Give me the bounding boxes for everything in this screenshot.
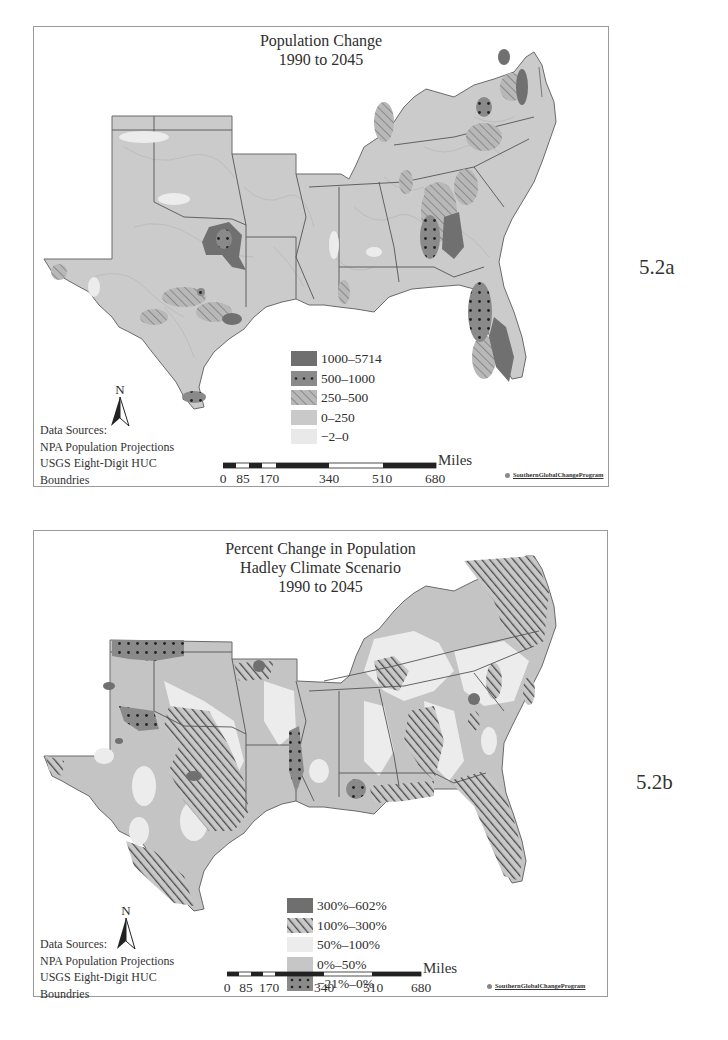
legend-label: 250–500 xyxy=(321,388,368,408)
legend-label: 100%–300% xyxy=(317,916,387,936)
credit-logo-icon xyxy=(487,984,492,989)
scale-unit: Miles xyxy=(423,960,457,977)
source-line: Boundries xyxy=(40,986,174,1003)
scale-tick: 680 xyxy=(411,980,431,996)
north-label: N xyxy=(105,383,135,396)
credit-text: SouthernGlobalChangeProgram xyxy=(495,982,586,989)
legend-label: 300%–602% xyxy=(317,896,387,916)
legend-item: 250–500 xyxy=(291,388,382,408)
credit-link[interactable]: SouthernGlobalChangeProgram xyxy=(505,471,604,478)
scale-tick: 0 xyxy=(220,471,227,487)
legend-label: 1000–5714 xyxy=(321,349,382,369)
legend-swatch-solid-dark xyxy=(287,898,313,913)
legend-swatch-solid-light xyxy=(287,937,313,952)
source-line: NPA Population Projections xyxy=(40,439,174,456)
data-sources: Data Sources: NPA Population Projections… xyxy=(40,936,174,1002)
figure-label-b: 5.2b xyxy=(636,770,673,795)
legend-item: −2–0 xyxy=(291,427,382,447)
legend-item: 500–1000 xyxy=(291,369,382,389)
data-sources: Data Sources: NPA Population Projections… xyxy=(40,422,174,488)
scale-bar: 0 85 170 340 510 680 Miles xyxy=(227,970,457,1010)
legend-label: 0–250 xyxy=(321,408,355,428)
region-base xyxy=(44,556,556,911)
sources-heading: Data Sources: xyxy=(40,936,174,953)
scale-bar: 0 85 170 340 510 680 Miles xyxy=(223,461,453,501)
source-line: USGS Eight-Digit HUC xyxy=(40,969,174,986)
legend-item: 50%–100% xyxy=(287,935,387,955)
legend-swatch-hatch xyxy=(287,918,313,933)
legend-swatch-solid xyxy=(291,410,317,425)
scale-tick: 170 xyxy=(259,980,279,996)
legend-label: 50%–100% xyxy=(317,935,380,955)
map-frame-percent-change: Percent Change in Population Hadley Clim… xyxy=(33,530,608,997)
scale-tick: 85 xyxy=(239,980,253,996)
legend-item: 100%–300% xyxy=(287,916,387,936)
map-legend: 1000–5714 500–1000 250–500 0–250 −2–0 xyxy=(291,349,382,447)
scale-tick: 510 xyxy=(372,471,392,487)
legend-swatch-hatch xyxy=(291,390,317,405)
legend-label: 500–1000 xyxy=(321,369,375,389)
legend-swatch-dots xyxy=(291,371,317,386)
scale-tick: 170 xyxy=(259,471,279,487)
scale-tick: 340 xyxy=(319,471,339,487)
credit-link[interactable]: SouthernGlobalChangeProgram xyxy=(487,982,586,989)
source-line: NPA Population Projections xyxy=(40,953,174,970)
credit-logo-icon xyxy=(505,473,510,478)
scale-tick: 680 xyxy=(425,471,445,487)
legend-swatch-solid-light xyxy=(291,429,317,444)
legend-item: 0–250 xyxy=(291,408,382,428)
scale-tick: 85 xyxy=(236,471,250,487)
source-line: Boundries xyxy=(40,472,174,489)
legend-item: 300%–602% xyxy=(287,896,387,916)
credit-text: SouthernGlobalChangeProgram xyxy=(513,471,604,478)
legend-swatch-solid-dark xyxy=(291,351,317,366)
scale-bar-graphic xyxy=(223,461,438,469)
scale-tick: 510 xyxy=(363,980,383,996)
scale-bar-graphic xyxy=(227,970,442,978)
legend-item: 1000–5714 xyxy=(291,349,382,369)
north-label: N xyxy=(111,904,141,917)
scale-unit: Miles xyxy=(438,452,472,469)
scale-tick: 0 xyxy=(224,980,231,996)
sources-heading: Data Sources: xyxy=(40,422,174,439)
figure-label-a: 5.2a xyxy=(639,255,675,280)
scale-tick: 340 xyxy=(314,980,334,996)
legend-label: −2–0 xyxy=(321,427,349,447)
map-frame-population-change: Population Change 1990 to 2045 xyxy=(33,26,609,487)
source-line: USGS Eight-Digit HUC xyxy=(40,455,174,472)
